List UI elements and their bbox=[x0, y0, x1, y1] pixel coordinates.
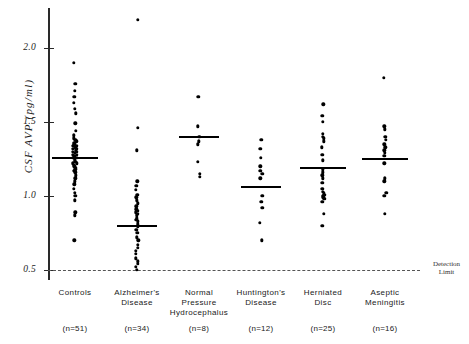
data-point bbox=[260, 239, 263, 242]
data-point bbox=[320, 153, 323, 156]
data-point bbox=[322, 212, 325, 215]
data-point bbox=[75, 162, 78, 165]
data-point bbox=[322, 103, 325, 106]
data-point bbox=[72, 239, 75, 242]
figure-root: CSF AVP (pg/ml) 0.51.01.52.0 Detection L… bbox=[0, 0, 469, 344]
data-point bbox=[134, 188, 137, 191]
data-point bbox=[135, 268, 138, 271]
data-point bbox=[259, 156, 262, 159]
data-point bbox=[321, 224, 324, 227]
data-point bbox=[260, 206, 263, 209]
data-point bbox=[383, 162, 386, 165]
data-point bbox=[72, 101, 75, 104]
mean-line bbox=[362, 158, 408, 160]
data-point bbox=[72, 187, 75, 190]
x-axis-group-count: (n=16) bbox=[340, 324, 430, 333]
data-point bbox=[321, 181, 324, 184]
mean-line bbox=[300, 167, 346, 169]
y-tick-label: 1.5 bbox=[8, 116, 36, 126]
x-axis-group-label: AsepticMeningitis bbox=[340, 288, 430, 308]
data-point bbox=[74, 82, 77, 85]
mean-line bbox=[179, 136, 219, 138]
detection-limit-label: Detection Limit bbox=[424, 260, 469, 276]
data-point bbox=[260, 138, 263, 141]
scatter-plot-area: CSF AVP (pg/ml) 0.51.01.52.0 Detection L… bbox=[0, 0, 469, 344]
mean-line bbox=[241, 186, 281, 188]
y-tick-label: 1.0 bbox=[8, 190, 36, 200]
data-point bbox=[196, 142, 199, 145]
x-axis-group-label-line: Meningitis bbox=[340, 298, 430, 308]
y-tick-mark bbox=[44, 196, 54, 197]
data-point bbox=[383, 128, 386, 131]
data-point bbox=[260, 200, 263, 203]
data-point bbox=[320, 145, 323, 148]
data-point bbox=[73, 95, 76, 98]
y-axis-title: CSF AVP (pg/ml) bbox=[22, 46, 34, 206]
data-point bbox=[321, 177, 324, 180]
x-axis-group-label-line: Aseptic bbox=[340, 288, 430, 298]
detection-limit-line bbox=[48, 270, 420, 271]
data-point bbox=[321, 114, 324, 117]
data-point bbox=[260, 172, 263, 175]
data-point bbox=[384, 138, 387, 141]
data-point bbox=[259, 177, 262, 180]
data-point bbox=[383, 179, 386, 182]
data-point bbox=[72, 61, 75, 64]
data-point bbox=[135, 231, 138, 234]
data-point bbox=[260, 194, 263, 197]
data-point bbox=[258, 147, 261, 150]
data-point bbox=[258, 221, 261, 224]
mean-line bbox=[52, 157, 98, 159]
y-tick-mark bbox=[44, 122, 54, 123]
data-point bbox=[136, 126, 139, 129]
detection-limit-label-line2: Limit bbox=[424, 268, 469, 276]
data-point bbox=[197, 95, 200, 98]
data-point bbox=[136, 18, 139, 21]
data-point bbox=[73, 182, 76, 185]
x-axis-group-label-line: Hydrocephalus bbox=[154, 308, 244, 318]
detection-limit-label-line1: Detection bbox=[424, 260, 469, 268]
data-point bbox=[134, 252, 137, 255]
data-point bbox=[322, 140, 325, 143]
mean-line bbox=[117, 225, 157, 227]
data-point bbox=[196, 125, 199, 128]
y-tick-label: 0.5 bbox=[8, 264, 36, 274]
data-point bbox=[321, 200, 324, 203]
data-point bbox=[196, 160, 199, 163]
data-point bbox=[321, 159, 324, 162]
data-point bbox=[135, 184, 138, 187]
data-point bbox=[74, 111, 77, 114]
data-point bbox=[135, 148, 138, 151]
data-point bbox=[321, 120, 324, 123]
data-point bbox=[259, 165, 262, 168]
data-point bbox=[198, 175, 201, 178]
y-tick-label: 2.0 bbox=[8, 42, 36, 52]
data-point bbox=[135, 179, 138, 182]
data-point bbox=[73, 214, 76, 217]
data-point bbox=[73, 107, 76, 110]
data-point bbox=[73, 199, 76, 202]
data-point bbox=[383, 194, 386, 197]
data-point bbox=[73, 194, 76, 197]
data-point bbox=[136, 239, 139, 242]
data-point bbox=[383, 212, 386, 215]
data-point bbox=[382, 76, 385, 79]
data-point bbox=[74, 122, 77, 125]
data-point bbox=[74, 129, 77, 132]
y-tick-mark bbox=[44, 48, 54, 49]
data-point bbox=[73, 89, 76, 92]
